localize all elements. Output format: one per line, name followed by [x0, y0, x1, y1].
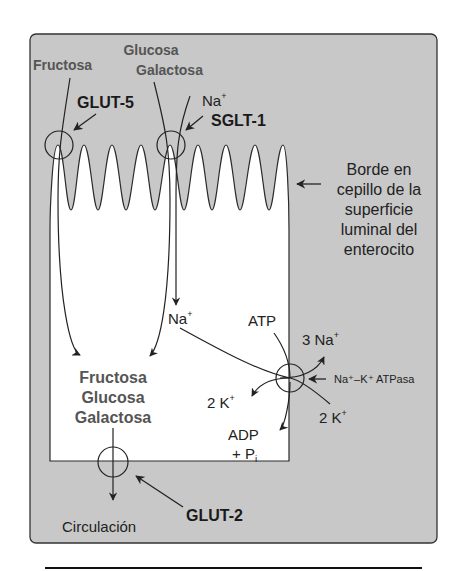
label-3na: 3 Na+	[302, 332, 339, 347]
label-fructosa: Fructosa	[33, 58, 92, 72]
cell-sugars: Fructosa Glucosa Galactosa	[60, 368, 166, 428]
label-glut2: GLUT-2	[186, 508, 243, 524]
label-glucosa: Glucosa	[106, 43, 196, 57]
label-pump: Na⁺–K⁺ ATPasa	[334, 374, 414, 385]
label-pi: + Pi	[232, 446, 257, 461]
label-adp: ADP	[228, 427, 259, 442]
label-sglt1: SGLT-1	[211, 113, 266, 129]
label-circulacion: Circulación	[62, 519, 136, 534]
brush-border-label: Borde en cepillo de la superficie lumina…	[325, 160, 433, 260]
label-glut5: GLUT-5	[77, 95, 134, 111]
label-2k-lumen: 2 K+	[319, 410, 347, 425]
label-2k-cell: 2 K+	[207, 395, 235, 410]
diagram-canvas	[0, 0, 457, 571]
label-na-lumen: Na+	[202, 93, 226, 108]
label-na-cell: Na+	[168, 311, 192, 326]
label-atp: ATP	[248, 313, 276, 328]
label-galactosa: Galactosa	[136, 63, 203, 77]
